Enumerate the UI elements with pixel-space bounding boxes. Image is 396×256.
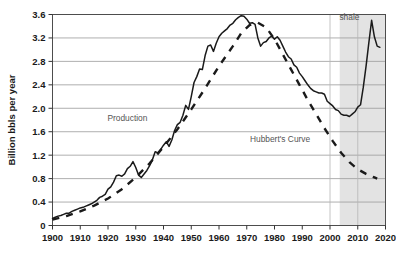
- x-tick-label: 2020: [375, 232, 396, 243]
- x-tick-label: 2010: [347, 232, 368, 243]
- x-tick-label: 1910: [70, 232, 91, 243]
- y-tick-label: 3.2: [32, 32, 45, 43]
- annotation-hubbert-s-curve: Hubbert's Curve: [250, 134, 311, 144]
- x-tick-label: 1940: [153, 232, 174, 243]
- annotation-production: Production: [107, 113, 147, 123]
- x-tick-label: 1950: [181, 232, 202, 243]
- y-tick-label: 3.6: [32, 9, 45, 20]
- x-tick-label: 1970: [236, 232, 257, 243]
- x-tick-label: 1960: [208, 232, 229, 243]
- x-tick-label: 1990: [292, 232, 313, 243]
- y-tick-label: 0.8: [32, 173, 45, 184]
- y-tick-label: 0: [40, 220, 45, 231]
- x-tick-label: 1920: [97, 232, 118, 243]
- x-tick-label: 1980: [264, 232, 285, 243]
- y-tick-label: 2.4: [32, 79, 46, 90]
- y-tick-label: 2.0: [32, 103, 45, 114]
- annotation-shale: shale: [339, 12, 359, 22]
- chart-container: 00.40.81.21.62.02.42.83.23.6 19001910192…: [0, 0, 396, 256]
- chart-background: [0, 0, 396, 256]
- y-tick-label: 2.8: [32, 56, 45, 67]
- x-tick-label: 1930: [125, 232, 146, 243]
- y-tick-label: 1.2: [32, 150, 45, 161]
- y-tick-label: 0.4: [32, 196, 46, 207]
- x-tick-label: 2000: [319, 232, 340, 243]
- oil-production-chart: 00.40.81.21.62.02.42.83.23.6 19001910192…: [0, 0, 396, 256]
- y-tick-label: 1.6: [32, 126, 45, 137]
- y-axis-title: Billion bbls per year: [6, 74, 17, 165]
- x-tick-label: 1900: [42, 232, 63, 243]
